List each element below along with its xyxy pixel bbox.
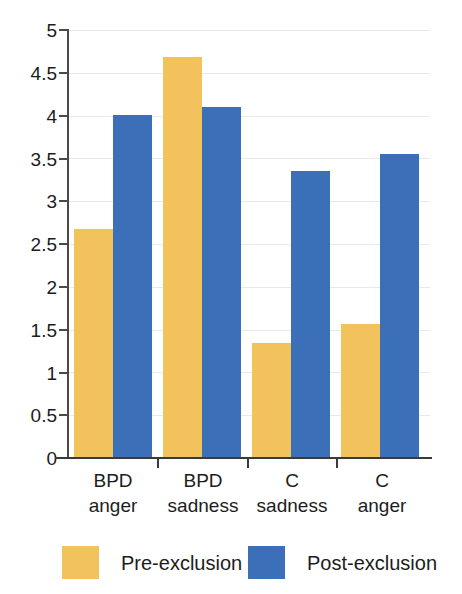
y-axis-tick-label: 5 bbox=[5, 21, 57, 40]
x-axis-tick bbox=[157, 459, 159, 468]
bar-post-exclusion-bpd-sadness bbox=[202, 107, 241, 458]
bar-pre-exclusion-bpd-sadness bbox=[163, 57, 202, 458]
bar-chart: 5 4.5 4 3.5 3 2.5 2 1.5 1 0.5 0 bbox=[0, 0, 462, 594]
x-axis-category-line2: anger bbox=[337, 493, 427, 518]
y-axis-tick-label: 1 bbox=[5, 364, 57, 383]
legend-item-post-exclusion: Post-exclusion bbox=[248, 546, 437, 579]
bar-post-exclusion-c-sadness bbox=[291, 171, 330, 458]
x-axis-category-label-bpd-anger: BPD anger bbox=[68, 468, 158, 518]
legend-item-pre-exclusion: Pre-exclusion bbox=[62, 546, 242, 579]
x-axis-category-line2: sadness bbox=[158, 493, 248, 518]
y-axis-tick-label: 2 bbox=[5, 278, 57, 297]
y-axis-labels: 5 4.5 4 3.5 3 2.5 2 1.5 1 0.5 0 bbox=[0, 0, 57, 594]
y-axis-tick-label: 1.5 bbox=[5, 321, 57, 340]
gridline bbox=[68, 73, 430, 74]
x-axis-tick bbox=[336, 459, 338, 468]
x-axis-tick bbox=[247, 459, 249, 468]
legend-swatch-pre-exclusion-icon bbox=[62, 546, 99, 579]
gridline bbox=[68, 30, 430, 31]
y-axis-tick-label: 3.5 bbox=[5, 150, 57, 169]
y-axis-line bbox=[67, 29, 69, 459]
bar-pre-exclusion-c-anger bbox=[341, 324, 380, 458]
x-axis-category-line1: BPD bbox=[68, 468, 158, 493]
legend-label-post-exclusion: Post-exclusion bbox=[307, 553, 437, 573]
bar-pre-exclusion-c-sadness bbox=[252, 343, 291, 458]
y-axis-tick-label: 0.5 bbox=[5, 406, 57, 425]
x-axis-category-line2: anger bbox=[68, 493, 158, 518]
x-axis-category-label-bpd-sadness: BPD sadness bbox=[158, 468, 248, 518]
x-axis-line bbox=[55, 457, 432, 459]
y-axis-tick-label: 3 bbox=[5, 192, 57, 211]
y-axis-tick-label: 4.5 bbox=[5, 64, 57, 83]
y-axis-tick-label: 0 bbox=[5, 449, 57, 468]
plot-area bbox=[68, 30, 430, 458]
x-axis-category-line1: BPD bbox=[158, 468, 248, 493]
x-axis-category-label-c-sadness: C sadness bbox=[247, 468, 337, 518]
bar-pre-exclusion-bpd-anger bbox=[74, 229, 113, 458]
chart-legend: Pre-exclusion Post-exclusion bbox=[0, 546, 462, 586]
legend-swatch-post-exclusion-icon bbox=[248, 546, 285, 579]
bar-post-exclusion-c-anger bbox=[380, 154, 419, 458]
x-axis-category-line1: C bbox=[337, 468, 427, 493]
x-axis-category-line2: sadness bbox=[247, 493, 337, 518]
legend-label-pre-exclusion: Pre-exclusion bbox=[121, 553, 242, 573]
bar-post-exclusion-bpd-anger bbox=[113, 115, 152, 458]
x-axis-category-label-c-anger: C anger bbox=[337, 468, 427, 518]
y-axis-tick-label: 4 bbox=[5, 107, 57, 126]
x-axis-category-line1: C bbox=[247, 468, 337, 493]
x-axis-labels: BPD anger BPD sadness C sadness C anger bbox=[68, 468, 430, 524]
y-axis-tick-label: 2.5 bbox=[5, 235, 57, 254]
